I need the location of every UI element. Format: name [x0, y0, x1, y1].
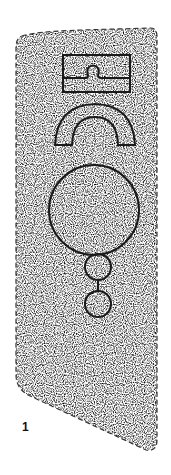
stone-surface — [0, 0, 171, 475]
figure-number: 1 — [22, 420, 29, 434]
stele-drawing — [0, 0, 171, 475]
